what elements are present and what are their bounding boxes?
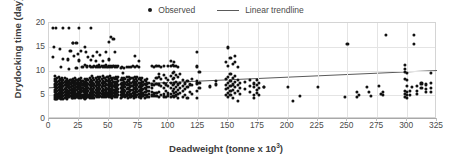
- chart-legend: Observed Linear trendline: [0, 2, 452, 18]
- legend-label-linear-trendline: Linear trendline: [245, 6, 304, 15]
- gridline-vertical: [228, 23, 229, 117]
- gridline-vertical: [288, 23, 289, 117]
- x-axis-tick-label: 325: [429, 120, 443, 130]
- y-axis-tick-label: 15: [36, 41, 45, 51]
- x-axis-tick-label: 150: [220, 120, 234, 130]
- x-axis-tick-label: 50: [103, 120, 112, 130]
- x-axis-tick-label: 25: [73, 120, 82, 130]
- gridline-vertical: [318, 23, 319, 117]
- y-axis-tick-label: 20: [36, 17, 45, 27]
- x-axis-tick-label: 300: [399, 120, 413, 130]
- y-axis-tick-label: 10: [36, 65, 45, 75]
- scatter-chart-figure: Observed Linear trendline Drydocking tim…: [0, 0, 452, 161]
- gridline-vertical: [139, 23, 140, 117]
- legend-entry-observed: Observed: [148, 6, 195, 15]
- y-axis-tick-labels: 05101520: [20, 0, 45, 161]
- gridline-vertical: [79, 23, 80, 117]
- x-axis-tick-label: 100: [160, 120, 174, 130]
- y-axis-tick-label: 0: [40, 113, 45, 123]
- x-axis-tick-label: 175: [250, 120, 264, 130]
- gridline-vertical: [407, 23, 408, 117]
- gridline-horizontal: [49, 47, 435, 48]
- x-axis-tick-label: 0: [46, 120, 51, 130]
- gridline-vertical: [258, 23, 259, 117]
- x-axis-tick-label: 200: [280, 120, 294, 130]
- gridline-vertical: [168, 23, 169, 117]
- x-axis-tick-label: 225: [310, 120, 324, 130]
- x-axis-title-main: Deadweight (tonne x 10: [169, 143, 276, 154]
- gridline-vertical: [347, 23, 348, 117]
- gridline-horizontal: [49, 71, 435, 72]
- x-axis-title-tail: ): [280, 143, 283, 154]
- legend-line-marker-icon: [217, 10, 239, 11]
- x-axis-tick-label: 250: [339, 120, 353, 130]
- legend-dot-marker-icon: [148, 8, 152, 12]
- x-axis-tick-label: 125: [190, 120, 204, 130]
- x-axis-tick-label: 75: [133, 120, 142, 130]
- x-axis-tick-label: 275: [369, 120, 383, 130]
- legend-entry-linear-trendline: Linear trendline: [217, 6, 304, 15]
- x-axis-line: [48, 118, 436, 119]
- x-axis-title: Deadweight (tonne x 103): [0, 140, 452, 155]
- legend-label-observed: Observed: [158, 6, 195, 15]
- y-axis-tick-label: 5: [40, 89, 45, 99]
- gridline-vertical: [377, 23, 378, 117]
- plot-area: [48, 22, 436, 118]
